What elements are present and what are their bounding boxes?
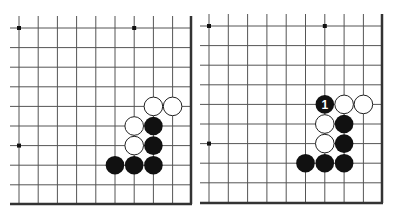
black-stone	[144, 156, 163, 175]
star-point-icon	[207, 24, 211, 28]
white-stone	[144, 97, 163, 116]
white-stone	[335, 95, 354, 114]
star-point-icon	[17, 26, 21, 30]
white-stone	[125, 117, 144, 136]
black-stone	[335, 115, 354, 134]
star-point-icon	[323, 24, 327, 28]
white-stone	[316, 134, 335, 153]
black-stone	[144, 117, 163, 136]
star-point-icon	[207, 142, 211, 146]
go-diagram: 1	[0, 0, 393, 217]
black-stone	[335, 154, 354, 173]
black-stone	[106, 156, 125, 175]
white-stone	[163, 97, 182, 116]
right-board: 1	[200, 14, 383, 203]
white-stone	[125, 136, 144, 155]
black-stone	[316, 154, 335, 173]
white-stone	[354, 95, 373, 114]
black-stone	[335, 134, 354, 153]
white-stone	[316, 115, 335, 134]
star-point-icon	[17, 144, 21, 148]
star-point-icon	[132, 26, 136, 30]
black-stone	[296, 154, 315, 173]
move-number: 1	[321, 98, 328, 112]
black-stone	[125, 156, 144, 175]
black-stone	[144, 136, 163, 155]
left-board	[10, 16, 192, 204]
